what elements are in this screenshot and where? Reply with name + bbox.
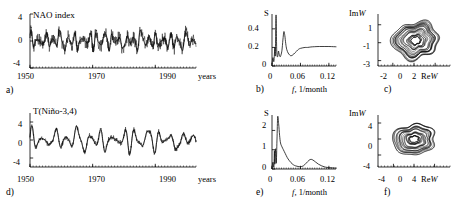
panel-b-letter: b) bbox=[256, 85, 264, 95]
panel-f-xtick-2: 4 bbox=[412, 175, 416, 184]
panel-d-xaxis-label: years bbox=[198, 175, 216, 184]
panel-a-series-title: NAO index bbox=[33, 11, 75, 20]
panel-f-xtick-0: -4 bbox=[378, 175, 385, 184]
panel-a: 4 0 -4 NAO index 1950 1970 1990 years a) bbox=[0, 0, 230, 103]
panel-d-ytick-2: -4 bbox=[13, 158, 20, 167]
panel-c-xaxis-symbol: W bbox=[430, 71, 437, 81]
panel-e-xaxis-units: , 1/month bbox=[294, 187, 327, 197]
spectrum-curve bbox=[272, 15, 336, 64]
panel-e: S 2 1 0 0 0.06 0.12 f, 1/month e) bbox=[232, 103, 342, 206]
panel-b-ytick-1: 0.2 bbox=[248, 42, 259, 51]
panel-f-ytick-1: 0 bbox=[368, 142, 372, 151]
panel-b: S 0.4 0.2 0 0 0.06 0.12 f, 1/month b) bbox=[232, 0, 342, 103]
panel-c-letter: c) bbox=[384, 85, 391, 95]
panel-b-xaxis-units: , 1/month bbox=[294, 84, 327, 94]
spectrum-curve bbox=[272, 116, 336, 168]
panel-d-plot bbox=[0, 103, 230, 206]
panel-b-yaxis-label: S bbox=[264, 9, 269, 18]
panel-c-xtick-0: -2 bbox=[380, 72, 387, 81]
panel-c-ytick-2: -3 bbox=[363, 60, 370, 69]
panel-f-letter: f) bbox=[384, 188, 390, 198]
panel-b-xtick-2: 0.12 bbox=[320, 72, 335, 81]
panel-d-xtick-1: 1970 bbox=[88, 175, 105, 184]
panel-e-ytick-2: 0 bbox=[262, 163, 266, 172]
panel-d-xtick-0: 1950 bbox=[17, 175, 34, 184]
panel-b-xaxis-label: f, 1/month bbox=[292, 85, 327, 94]
panel-b-ytick-0: 0.4 bbox=[248, 24, 259, 33]
panel-e-xtick-0: 0 bbox=[268, 175, 272, 184]
panel-d: T(Niño-3,4) 4 0 -4 1950 1970 1990 years … bbox=[0, 103, 230, 206]
series-smooth bbox=[30, 126, 196, 155]
panel-c: ImW 1 -1 -3 -2 0 2 ReW c) bbox=[342, 0, 458, 103]
panel-e-yaxis-label: S bbox=[264, 109, 269, 118]
panel-a-xtick-0: 1950 bbox=[17, 72, 34, 81]
panel-a-letter: a) bbox=[6, 86, 13, 96]
series-noisy bbox=[30, 125, 196, 156]
panel-f: ImW 4 0 -4 -4 0 4 ReW f) bbox=[342, 103, 458, 206]
panel-d-series-title: T(Niño-3,4) bbox=[33, 107, 77, 116]
panel-c-xtick-1: 0 bbox=[398, 72, 402, 81]
panel-f-yaxis-label: ImW bbox=[349, 109, 366, 118]
panel-f-ytick-0: 4 bbox=[368, 122, 372, 131]
panel-f-xaxis-symbol: W bbox=[430, 174, 437, 184]
figure-six-panel: 4 0 -4 NAO index 1950 1970 1990 years a)… bbox=[0, 0, 458, 206]
panel-d-letter: d) bbox=[6, 188, 14, 198]
phase-trajectory bbox=[393, 123, 435, 155]
phase-trajectory bbox=[390, 20, 439, 62]
panel-c-xaxis-label: ReW bbox=[421, 72, 438, 81]
panel-f-xtick-1: 0 bbox=[398, 175, 402, 184]
panel-e-xtick-2: 0.12 bbox=[320, 175, 335, 184]
panel-d-ytick-1: 0 bbox=[18, 139, 22, 148]
panel-b-xtick-1: 0.06 bbox=[290, 72, 305, 81]
panel-a-ytick-2: -4 bbox=[13, 59, 20, 68]
panel-b-ytick-2: 0 bbox=[262, 60, 266, 69]
panel-a-xtick-2: 1990 bbox=[159, 72, 176, 81]
panel-a-xaxis-label: years bbox=[198, 72, 216, 81]
panel-f-ytick-2: -4 bbox=[363, 162, 370, 171]
panel-f-xaxis-label: ReW bbox=[421, 175, 438, 184]
panel-e-ytick-0: 2 bbox=[262, 121, 266, 130]
panel-e-xtick-1: 0.06 bbox=[290, 175, 305, 184]
panel-c-ytick-1: -1 bbox=[363, 42, 370, 51]
panel-e-xaxis-label: f, 1/month bbox=[292, 188, 327, 197]
panel-d-ytick-0: 4 bbox=[18, 120, 22, 129]
panel-a-ytick-1: 0 bbox=[18, 36, 22, 45]
panel-f-plot bbox=[342, 103, 458, 206]
panel-a-xtick-1: 1970 bbox=[88, 72, 105, 81]
panel-c-yaxis-label: ImW bbox=[349, 9, 366, 18]
panel-f-yaxis-symbol: W bbox=[358, 108, 365, 118]
panel-c-yaxis-symbol: W bbox=[358, 8, 365, 18]
panel-a-ytick-0: 4 bbox=[18, 13, 22, 22]
panel-e-ytick-1: 1 bbox=[262, 142, 266, 151]
panel-e-letter: e) bbox=[256, 188, 263, 198]
panel-c-ytick-0: 1 bbox=[368, 24, 372, 33]
panel-c-xtick-2: 2 bbox=[412, 72, 416, 81]
panel-b-xtick-0: 0 bbox=[268, 72, 272, 81]
panel-d-xtick-2: 1990 bbox=[159, 175, 176, 184]
